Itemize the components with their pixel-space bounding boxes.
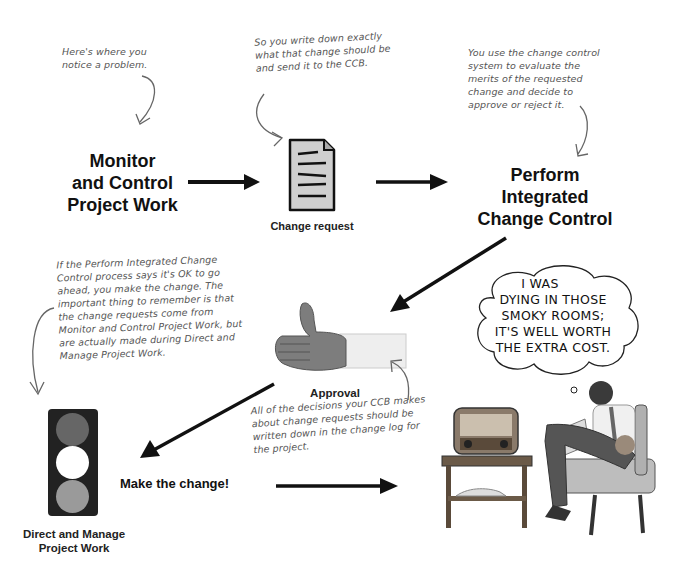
- document-icon: [286, 136, 338, 216]
- light-middle: [56, 446, 89, 479]
- perform-line-1: Perform: [470, 164, 620, 186]
- perform-line-3: Change Control: [470, 208, 620, 230]
- light-bottom: [56, 480, 89, 513]
- bubble-line-1: I WAS: [452, 276, 628, 292]
- curved-arrow-icon: [572, 104, 602, 164]
- arrow-right-icon: [186, 172, 266, 192]
- node-monitor-control: Monitor and Control Project Work: [55, 150, 190, 216]
- monitor-line-2: and Control: [55, 172, 190, 194]
- bubble-line-5: THE EXTRA COST.: [478, 340, 628, 356]
- monitor-line-3: Project Work: [55, 194, 190, 216]
- monitor-line-1: Monitor: [55, 150, 190, 172]
- curved-arrow-icon: [22, 306, 62, 398]
- arrow-right-icon: [274, 476, 404, 496]
- direct-manage-line-1: Direct and Manage: [14, 527, 134, 541]
- light-top: [56, 413, 89, 446]
- direct-manage-label: Direct and Manage Project Work: [14, 527, 134, 555]
- bubble-line-2: DYING IN THOSE: [478, 292, 628, 308]
- perform-line-2: Integrated: [470, 186, 620, 208]
- note-evaluate: You use the change control system to eva…: [468, 46, 613, 111]
- radio-on-table-illustration: [440, 406, 535, 531]
- node-perform-integrated-change-control: Perform Integrated Change Control: [470, 164, 620, 230]
- arrow-right-icon: [374, 172, 454, 192]
- change-request-label: Change request: [262, 219, 362, 233]
- curved-arrow-icon: [130, 72, 170, 132]
- bubble-line-3: SMOKY ROOMS;: [478, 308, 628, 324]
- thought-bubble-text: I WAS DYING IN THOSE SMOKY ROOMS; IT'S W…: [478, 276, 628, 356]
- make-change-label: Make the change!: [120, 476, 229, 491]
- note-notice-problem: Here's where you notice a problem.: [62, 45, 152, 71]
- note-write-down: So you write down exactly what that chan…: [254, 28, 401, 75]
- bubble-line-4: IT'S WELL WORTH: [478, 324, 628, 340]
- man-reading-in-chair-illustration: [525, 385, 645, 545]
- traffic-light-icon: [48, 409, 98, 516]
- direct-manage-line-2: Project Work: [14, 541, 134, 555]
- note-make-change: If the Perform Integrated Change Control…: [56, 252, 255, 363]
- arrow-diagonal-icon: [138, 382, 278, 462]
